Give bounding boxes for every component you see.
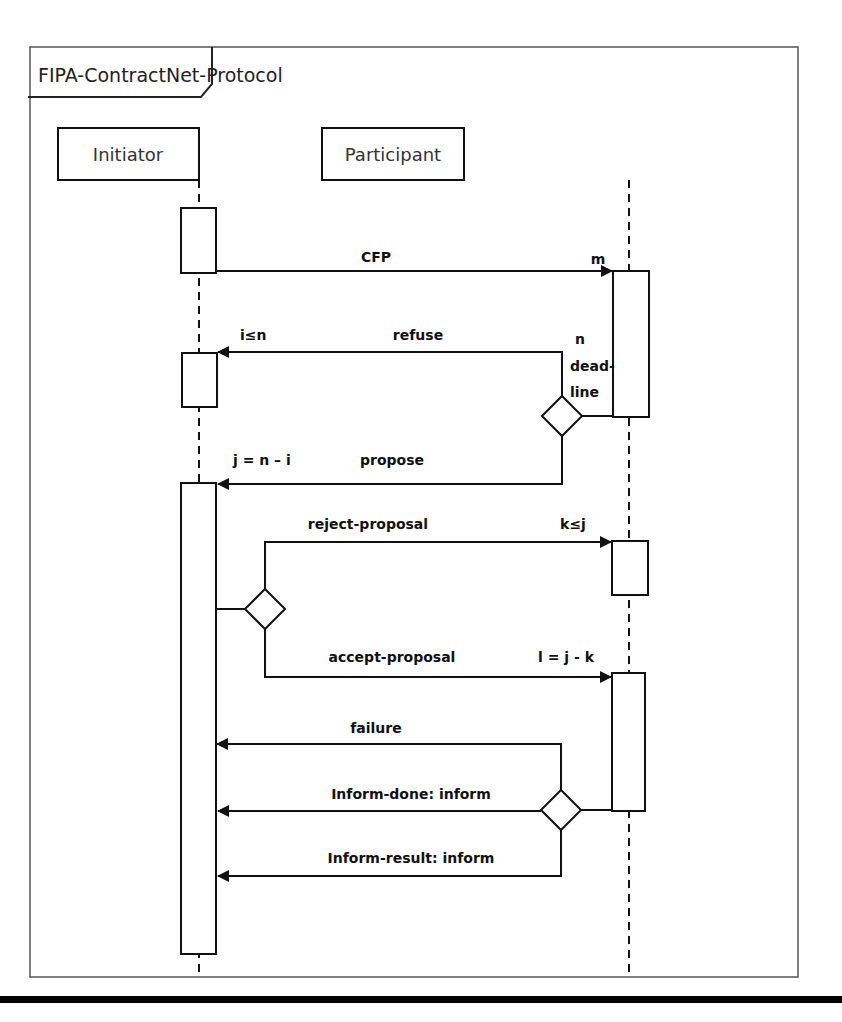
- diagram-frame: [30, 47, 798, 977]
- accept-proposal-label: accept-proposal: [329, 649, 456, 665]
- decision-diamond-2: [245, 589, 285, 629]
- activation-participant-1: [613, 271, 649, 417]
- message-reject-proposal: reject-proposal k≤j: [265, 516, 611, 589]
- decision-diamond-1: [542, 396, 582, 436]
- failure-label: failure: [350, 720, 402, 736]
- lifeline-label-participant: Participant: [345, 144, 441, 165]
- reject-proposal-label: reject-proposal: [308, 516, 428, 532]
- message-refuse: i≤n refuse n: [218, 327, 585, 396]
- reject-proposal-guard: k≤j: [560, 516, 586, 532]
- cfp-multiplicity: m: [591, 251, 606, 267]
- propose-guard-left: j = n – i: [232, 452, 291, 468]
- lifeline-initiator: Initiator: [58, 128, 199, 180]
- lifeline-label-initiator: Initiator: [93, 144, 164, 165]
- propose-label: propose: [360, 452, 424, 468]
- inform-done-label: Inform-done: inform: [331, 786, 491, 802]
- message-cfp: CFP m: [216, 249, 612, 271]
- sequence-diagram: FIPA-ContractNet-Protocol Initiator Part…: [0, 0, 842, 1022]
- activation-initiator-1: [181, 208, 216, 273]
- activation-participant-2: [612, 541, 648, 595]
- activation-initiator-3: [181, 483, 216, 954]
- refuse-label: refuse: [393, 327, 443, 343]
- message-accept-proposal: accept-proposal l = j - k: [265, 629, 611, 677]
- refuse-guard-right: n: [575, 331, 585, 347]
- refuse-arrow: [218, 352, 562, 396]
- decision-diamond-3: [541, 790, 581, 830]
- frame-title: FIPA-ContractNet-Protocol: [38, 64, 283, 86]
- activation-participant-3: [612, 673, 645, 811]
- inform-result-label: Inform-result: inform: [328, 850, 495, 866]
- message-propose: j = n – i propose: [218, 436, 562, 484]
- failure-arrow: [217, 744, 561, 790]
- deadline-note: dead- line: [570, 358, 615, 400]
- cfp-label: CFP: [361, 249, 391, 265]
- deadline-line-2: line: [570, 384, 599, 400]
- deadline-line-1: dead-: [570, 358, 615, 374]
- message-inform-result: Inform-result: inform: [218, 830, 561, 876]
- message-inform-done: Inform-done: inform: [218, 786, 541, 811]
- lifeline-participant: Participant: [322, 128, 464, 180]
- refuse-guard-left: i≤n: [240, 327, 267, 343]
- reject-proposal-arrow: [265, 542, 611, 589]
- accept-proposal-guard: l = j - k: [538, 649, 595, 665]
- bottom-rule: [0, 996, 842, 1003]
- activation-initiator-2: [182, 353, 217, 407]
- message-failure: failure: [217, 720, 561, 790]
